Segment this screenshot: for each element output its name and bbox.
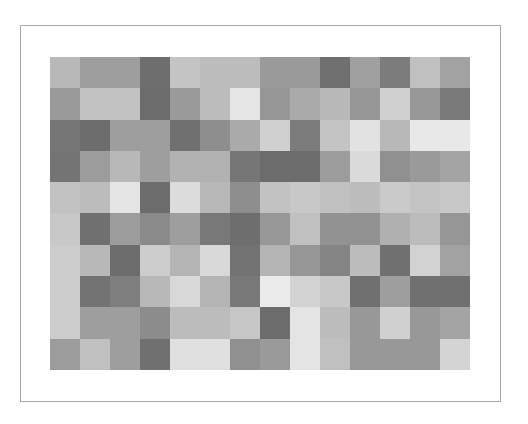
mosaic-cell	[290, 88, 320, 119]
mosaic-cell	[410, 182, 440, 213]
mosaic-cell	[410, 151, 440, 182]
mosaic-cell	[320, 276, 350, 307]
mosaic-cell	[170, 245, 200, 276]
mosaic-cell	[200, 120, 230, 151]
mosaic-cell	[440, 88, 470, 119]
mosaic-cell	[410, 307, 440, 338]
mosaic-cell	[350, 57, 380, 88]
mosaic-cell	[230, 213, 260, 244]
mosaic-cell	[320, 120, 350, 151]
mosaic-cell	[110, 88, 140, 119]
mosaic-cell	[380, 120, 410, 151]
mosaic-cell	[410, 339, 440, 370]
mosaic-cell	[440, 276, 470, 307]
mosaic-cell	[140, 245, 170, 276]
mosaic-cell	[230, 245, 260, 276]
mosaic-cell	[140, 339, 170, 370]
mosaic-cell	[50, 182, 80, 213]
mosaic-cell	[410, 57, 440, 88]
mosaic-cell	[110, 151, 140, 182]
mosaic-cell	[80, 88, 110, 119]
mosaic-cell	[110, 213, 140, 244]
mosaic-cell	[110, 182, 140, 213]
mosaic-cell	[440, 213, 470, 244]
mosaic-cell	[140, 213, 170, 244]
mosaic-cell	[350, 88, 380, 119]
mosaic-cell	[170, 276, 200, 307]
mosaic-cell	[380, 245, 410, 276]
mosaic-cell	[410, 88, 440, 119]
mosaic-cell	[260, 88, 290, 119]
mosaic-cell	[230, 151, 260, 182]
mosaic-cell	[50, 151, 80, 182]
mosaic-cell	[380, 276, 410, 307]
mosaic-cell	[290, 276, 320, 307]
mosaic-cell	[170, 88, 200, 119]
mosaic-cell	[110, 307, 140, 338]
mosaic-cell	[200, 88, 230, 119]
mosaic-cell	[320, 151, 350, 182]
mosaic-cell	[170, 182, 200, 213]
mosaic-cell	[230, 57, 260, 88]
mosaic-cell	[440, 151, 470, 182]
mosaic-cell	[80, 245, 110, 276]
mosaic-cell	[200, 276, 230, 307]
mosaic-cell	[80, 120, 110, 151]
mosaic-cell	[50, 120, 80, 151]
mosaic-cell	[80, 57, 110, 88]
mosaic-cell	[380, 307, 410, 338]
mosaic-cell	[230, 182, 260, 213]
mosaic-cell	[380, 57, 410, 88]
mosaic-cell	[110, 120, 140, 151]
mosaic-cell	[350, 276, 380, 307]
mosaic-cell	[350, 307, 380, 338]
mosaic-cell	[260, 120, 290, 151]
mosaic-cell	[290, 182, 320, 213]
mosaic-cell	[80, 151, 110, 182]
mosaic-cell	[260, 245, 290, 276]
mosaic-cell	[50, 276, 80, 307]
mosaic-cell	[440, 57, 470, 88]
mosaic-cell	[320, 88, 350, 119]
mosaic-cell	[290, 245, 320, 276]
mosaic-cell	[440, 307, 470, 338]
mosaic-cell	[50, 213, 80, 244]
mosaic-cell	[260, 57, 290, 88]
mosaic-cell	[290, 57, 320, 88]
mosaic-cell	[320, 213, 350, 244]
mosaic-cell	[380, 213, 410, 244]
grayscale-mosaic-grid	[50, 57, 470, 370]
mosaic-cell	[320, 245, 350, 276]
mosaic-cell	[80, 213, 110, 244]
mosaic-cell	[350, 339, 380, 370]
mosaic-cell	[50, 307, 80, 338]
mosaic-cell	[320, 307, 350, 338]
mosaic-cell	[260, 182, 290, 213]
mosaic-cell	[350, 120, 380, 151]
mosaic-cell	[170, 120, 200, 151]
mosaic-cell	[380, 88, 410, 119]
mosaic-cell	[140, 151, 170, 182]
mosaic-cell	[380, 151, 410, 182]
mosaic-cell	[200, 213, 230, 244]
mosaic-cell	[200, 182, 230, 213]
mosaic-cell	[170, 213, 200, 244]
mosaic-cell	[140, 307, 170, 338]
mosaic-cell	[440, 245, 470, 276]
mosaic-cell	[350, 213, 380, 244]
mosaic-cell	[80, 182, 110, 213]
mosaic-cell	[50, 245, 80, 276]
mosaic-cell	[410, 276, 440, 307]
mosaic-cell	[230, 276, 260, 307]
mosaic-cell	[350, 182, 380, 213]
mosaic-cell	[170, 57, 200, 88]
mosaic-cell	[440, 339, 470, 370]
mosaic-cell	[170, 339, 200, 370]
mosaic-cell	[140, 120, 170, 151]
mosaic-cell	[260, 339, 290, 370]
mosaic-cell	[80, 276, 110, 307]
mosaic-cell	[200, 151, 230, 182]
mosaic-cell	[290, 213, 320, 244]
mosaic-cell	[260, 276, 290, 307]
mosaic-cell	[140, 276, 170, 307]
